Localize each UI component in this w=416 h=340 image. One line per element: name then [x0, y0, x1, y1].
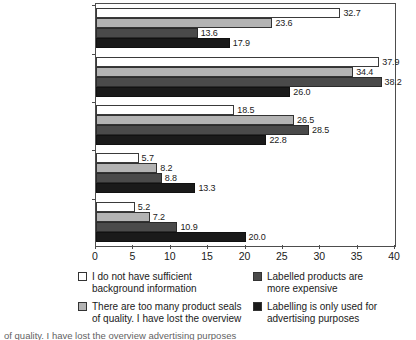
bar-value-label: 23.6 [275, 19, 292, 28]
bar-row: 18.5 [96, 105, 395, 115]
bar[interactable] [96, 8, 340, 18]
legend-swatch-icon [78, 272, 87, 281]
legend-label: I do not have sufficient background info… [92, 271, 197, 294]
chart-legend: I do not have sufficient background info… [0, 271, 416, 331]
bar-row: 37.9 [96, 57, 395, 67]
x-axis-tick-label: 5 [129, 250, 135, 262]
bar[interactable] [96, 125, 309, 135]
x-axis-tick-label: 20 [239, 250, 251, 262]
y-axis-tick [92, 102, 96, 103]
x-axis-tick-label: 0 [92, 250, 98, 262]
bar[interactable] [96, 87, 290, 97]
bar-value-label: 8.2 [160, 164, 172, 173]
bar-row: 23.6 [96, 18, 395, 28]
bar-row: 8.8 [96, 173, 395, 183]
bar[interactable] [96, 18, 272, 28]
y-axis-tick [92, 54, 96, 55]
bar-row: 10.9 [96, 222, 395, 232]
bar-value-label: 26.5 [297, 115, 314, 124]
legend-label: Labelled products are more expensive [267, 271, 363, 294]
bar-row: 34.4 [96, 67, 395, 77]
x-axis-tick [170, 245, 171, 249]
legend-item[interactable]: Labelling is only used for advertising p… [253, 301, 377, 324]
legend-label: Labelling is only used for advertising p… [267, 301, 377, 324]
bar-row: 5.2 [96, 202, 395, 212]
bar-value-label: 37.9 [382, 57, 399, 66]
x-axis-tick-label: 15 [201, 250, 213, 262]
bar[interactable] [96, 28, 198, 38]
bar-value-label: 34.4 [356, 67, 373, 76]
bar-value-label: 8.8 [165, 174, 177, 183]
caption-partial: of quality. I have lost the overview adv… [0, 332, 416, 340]
plot-area: 32.723.613.617.937.934.438.226.018.526.5… [95, 3, 396, 247]
bar-row: 32.7 [96, 8, 395, 18]
bar-value-label: 26.0 [293, 87, 310, 96]
bar[interactable] [96, 38, 230, 48]
bar[interactable] [96, 222, 177, 232]
x-axis-tick-label: 40 [388, 250, 400, 262]
bar-row: 13.6 [96, 28, 395, 38]
x-axis-tick [357, 245, 358, 249]
bar-row: 7.2 [96, 212, 395, 222]
x-axis-tick-label: 35 [351, 250, 363, 262]
x-axis-tick [95, 245, 96, 249]
legend-item[interactable]: I do not have sufficient background info… [78, 271, 197, 294]
bar-value-label: 13.6 [201, 29, 218, 38]
bar-row: 26.0 [96, 87, 395, 97]
bar[interactable] [96, 115, 294, 125]
bar-value-label: 22.8 [269, 135, 286, 144]
bar-row: 8.2 [96, 163, 395, 173]
bar-value-label: 38.2 [385, 77, 402, 86]
bar[interactable] [96, 232, 246, 242]
x-axis-tick-label: 10 [164, 250, 176, 262]
y-axis-tick [92, 5, 96, 6]
bar[interactable] [96, 173, 162, 183]
bar-value-label: 32.7 [343, 9, 360, 18]
legend-item[interactable]: There are too many product seals of qual… [78, 301, 242, 324]
y-axis-tick [92, 150, 96, 151]
bar[interactable] [96, 163, 157, 173]
bar-group: 18.526.528.522.8 [96, 101, 395, 149]
bar[interactable] [96, 153, 139, 163]
x-axis-tick [245, 245, 246, 249]
bar-row: 5.7 [96, 153, 395, 163]
bar-row: 26.5 [96, 115, 395, 125]
bar[interactable] [96, 105, 234, 115]
bar[interactable] [96, 77, 382, 87]
bar-value-label: 20.0 [249, 232, 266, 241]
legend-swatch-icon [78, 302, 87, 311]
bar-value-label: 10.9 [180, 222, 197, 231]
x-axis-tick [207, 245, 208, 249]
bar-value-label: 5.2 [138, 202, 150, 211]
bar[interactable] [96, 135, 266, 145]
caption-text: of quality. I have lost the overview adv… [4, 332, 416, 340]
bar-row: 13.3 [96, 183, 395, 193]
bar[interactable] [96, 202, 135, 212]
bar-group: 37.934.438.226.0 [96, 52, 395, 100]
bar-row: 22.8 [96, 135, 395, 145]
bar-value-label: 7.2 [153, 212, 165, 221]
bar-group: 5.27.210.920.0 [96, 198, 395, 246]
x-axis-tick [132, 245, 133, 249]
bar-group: 5.78.28.813.3 [96, 149, 395, 197]
y-axis-tick [92, 199, 96, 200]
bar-row: 38.2 [96, 77, 395, 87]
bar-row: 17.9 [96, 38, 395, 48]
bar-row: 28.5 [96, 125, 395, 135]
x-axis-tick [394, 245, 395, 249]
bar[interactable] [96, 183, 195, 193]
bar[interactable] [96, 67, 353, 77]
bar-chart-figure: 32.723.613.617.937.934.438.226.018.526.5… [0, 0, 416, 340]
bar[interactable] [96, 57, 379, 67]
bar-row: 20.0 [96, 232, 395, 242]
bar-value-label: 28.5 [312, 125, 329, 134]
legend-item[interactable]: Labelled products are more expensive [253, 271, 363, 294]
bar-value-label: 18.5 [237, 105, 254, 114]
x-axis-tick-label: 25 [276, 250, 288, 262]
legend-label: There are too many product seals of qual… [92, 301, 242, 324]
legend-swatch-icon [253, 272, 262, 281]
bar[interactable] [96, 212, 150, 222]
bar-group: 32.723.613.617.9 [96, 4, 395, 52]
bar-value-label: 13.3 [198, 184, 215, 193]
legend-swatch-icon [253, 302, 262, 311]
